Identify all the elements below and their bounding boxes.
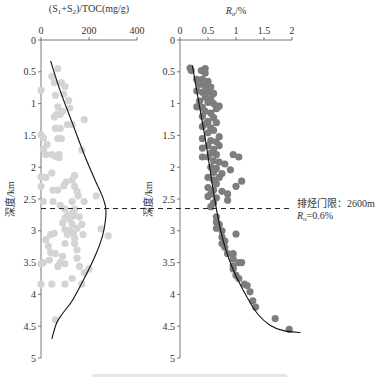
right-panel-ro: Ro/% 00.511.52 00.511.522.533.544.55 深度/…: [142, 5, 300, 364]
left-fit-curve: [51, 61, 106, 339]
svg-text:5: 5: [170, 353, 175, 364]
left-panel-s1s2-toc: (S1+S2)/TOC(mg/g) 0200400 00.511.522.533…: [4, 3, 145, 364]
left-scatter-points: [37, 65, 111, 323]
right-panel-title: Ro/%: [225, 5, 247, 18]
svg-text:2: 2: [31, 162, 36, 173]
svg-text:0: 0: [39, 25, 44, 36]
left-y-axis-ticks: 00.511.522.533.544.55: [24, 35, 42, 364]
left-x-axis-ticks: 0200400: [39, 25, 145, 40]
svg-text:3.5: 3.5: [24, 257, 37, 268]
left-panel-title: (S1+S2)/TOC(mg/g): [49, 3, 129, 16]
svg-text:3: 3: [170, 225, 175, 236]
right-y-axis-label: 深度/km: [142, 181, 154, 217]
svg-text:0: 0: [31, 35, 36, 46]
svg-text:4.5: 4.5: [163, 321, 176, 332]
svg-text:3: 3: [31, 225, 36, 236]
right-x-axis-ticks: 00.511.52: [178, 25, 295, 40]
svg-text:1.5: 1.5: [24, 130, 37, 141]
svg-text:2: 2: [170, 162, 175, 173]
depth-profile-chart: (S1+S2)/TOC(mg/g) 0200400 00.511.522.533…: [0, 0, 384, 377]
svg-text:0.5: 0.5: [202, 25, 215, 36]
right-y-axis-ticks: 00.511.522.533.544.55: [163, 35, 181, 364]
svg-text:4.5: 4.5: [24, 321, 37, 332]
threshold-annotation-line1: 排烃门限：2600m: [297, 197, 375, 209]
svg-text:2.5: 2.5: [24, 194, 37, 205]
svg-text:4: 4: [31, 289, 36, 300]
svg-text:1: 1: [170, 98, 175, 109]
threshold-annotation-line2: Ro=0.6%: [296, 210, 333, 223]
svg-text:0: 0: [178, 25, 183, 36]
svg-text:1: 1: [31, 98, 36, 109]
svg-text:3.5: 3.5: [163, 257, 176, 268]
right-scatter-points: [186, 64, 292, 333]
svg-text:200: 200: [82, 25, 97, 36]
svg-text:0.5: 0.5: [163, 66, 176, 77]
svg-text:0: 0: [170, 35, 175, 46]
svg-text:4: 4: [170, 289, 175, 300]
svg-text:1.5: 1.5: [258, 25, 271, 36]
left-y-axis-label: 深度/km: [4, 181, 16, 217]
svg-text:1: 1: [234, 25, 239, 36]
svg-text:1.5: 1.5: [163, 130, 176, 141]
svg-text:5: 5: [31, 353, 36, 364]
svg-text:0.5: 0.5: [24, 66, 37, 77]
svg-text:2.5: 2.5: [163, 194, 176, 205]
svg-text:2: 2: [290, 25, 295, 36]
svg-text:400: 400: [130, 25, 145, 36]
